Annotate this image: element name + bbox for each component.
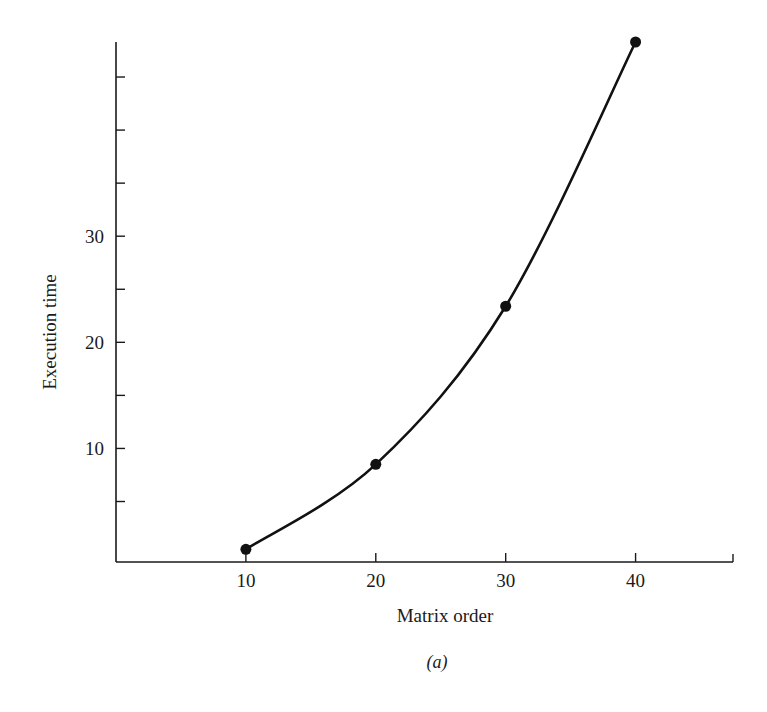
data-curve bbox=[246, 42, 636, 549]
chart-tick-labels: 10203010203040 bbox=[85, 226, 645, 591]
data-point-marker bbox=[500, 301, 511, 312]
x-tick-label: 20 bbox=[366, 570, 385, 591]
x-axis-label: Matrix order bbox=[397, 605, 494, 626]
figure-caption: (a) bbox=[427, 652, 448, 673]
chart-axes bbox=[116, 42, 733, 562]
y-axis-label: Execution time bbox=[39, 274, 60, 390]
data-point-marker bbox=[370, 459, 381, 470]
y-tick-label: 30 bbox=[85, 226, 104, 247]
x-tick-label: 10 bbox=[236, 570, 255, 591]
chart-figure: 10203010203040 Matrix order Execution ti… bbox=[0, 0, 767, 712]
data-point-marker bbox=[630, 37, 641, 48]
chart-series bbox=[240, 37, 641, 555]
chart-ticks bbox=[116, 77, 636, 562]
x-tick-label: 40 bbox=[626, 570, 645, 591]
y-tick-label: 20 bbox=[85, 332, 104, 353]
y-tick-label: 10 bbox=[85, 438, 104, 459]
x-tick-label: 30 bbox=[496, 570, 515, 591]
data-point-marker bbox=[240, 544, 251, 555]
